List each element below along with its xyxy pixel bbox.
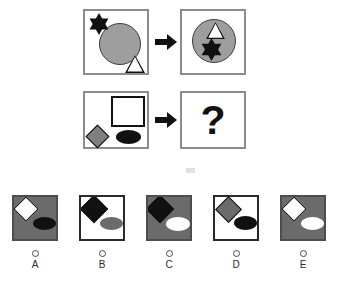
option-B-letter: B (72, 259, 132, 270)
option-D[interactable]: D (206, 195, 266, 270)
panel-row1-result (180, 9, 246, 75)
triangle-shape (125, 55, 145, 73)
option-A-radio[interactable] (32, 250, 39, 257)
question-mark: ? (182, 93, 244, 147)
option-A[interactable]: A (5, 195, 65, 270)
diamond-shape (13, 196, 38, 221)
diamond-shape (281, 196, 306, 221)
puzzle-stage: ? A B C D (0, 0, 358, 295)
option-B[interactable]: B (72, 195, 132, 270)
option-D-letter: D (206, 259, 266, 270)
option-C-image[interactable] (146, 195, 192, 241)
option-D-radio[interactable] (233, 250, 240, 257)
star-shape (88, 13, 110, 35)
scan-artifact (186, 168, 195, 173)
option-C-radio[interactable] (166, 250, 173, 257)
option-E-letter: E (273, 259, 333, 270)
option-B-radio[interactable] (99, 250, 106, 257)
ellipse-shape (301, 217, 324, 230)
option-C[interactable]: C (139, 195, 199, 270)
ellipse-shape (116, 130, 141, 144)
square-shape (111, 96, 145, 127)
option-D-image[interactable] (213, 195, 259, 241)
ellipse-shape (166, 217, 190, 231)
right-arrow-icon (155, 34, 177, 50)
option-B-image[interactable] (79, 195, 125, 241)
option-A-image[interactable] (12, 195, 58, 241)
panel-row2-result: ? (180, 91, 246, 149)
ellipse-shape (100, 217, 123, 230)
panel-row2-source (83, 91, 149, 149)
star-shape (200, 38, 223, 61)
option-E-image[interactable] (280, 195, 326, 241)
triangle-shape (206, 22, 225, 39)
option-E[interactable]: E (273, 195, 333, 270)
right-arrow-icon (155, 112, 177, 128)
option-C-letter: C (139, 259, 199, 270)
diamond-shape (85, 124, 109, 148)
panel-row1-source (83, 9, 149, 75)
ellipse-shape (234, 216, 257, 230)
option-A-letter: A (5, 259, 65, 270)
ellipse-shape (33, 217, 56, 230)
option-E-radio[interactable] (300, 250, 307, 257)
